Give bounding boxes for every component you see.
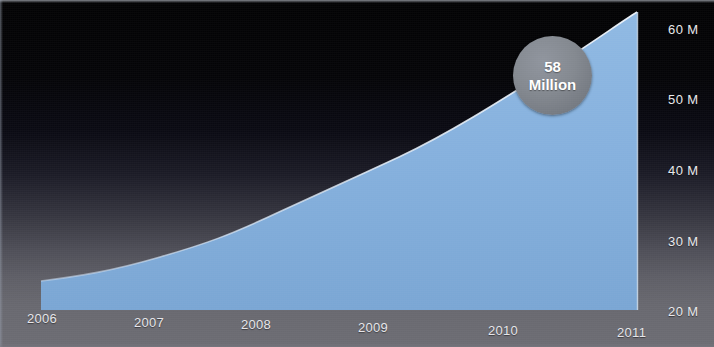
x-tick-label-2010: 2010: [488, 323, 518, 338]
y-tick-label-50m: 50 M: [668, 92, 699, 107]
y-tick-label-30m: 30 M: [668, 234, 699, 249]
y-tick-label-60m: 60 M: [668, 22, 699, 37]
x-tick-label-2008: 2008: [241, 317, 271, 332]
x-tick-label-2006: 2006: [27, 311, 57, 326]
x-tick-label-2007: 2007: [134, 315, 164, 330]
callout-value: 58: [544, 58, 561, 75]
callout-bubble-58-million: 58 Million: [513, 36, 592, 115]
y-tick-label-40m: 40 M: [668, 163, 699, 178]
x-tick-label-2009: 2009: [358, 320, 388, 335]
y-tick-label-20m: 20 M: [668, 304, 699, 319]
area-chart-plot: [0, 0, 714, 347]
x-tick-label-2011: 2011: [617, 325, 646, 340]
callout-unit: Million: [529, 76, 577, 93]
chart-screenshot: 60 M 50 M 40 M 30 M 20 M 2006 2007 2008 …: [0, 0, 714, 347]
